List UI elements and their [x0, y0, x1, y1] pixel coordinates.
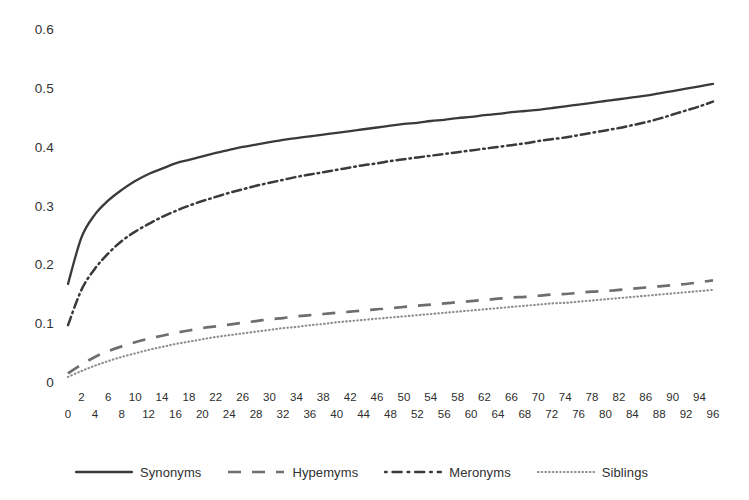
- series-line-synonyms: [68, 84, 713, 284]
- legend-label-hypemyms: Hypemyms: [292, 465, 358, 480]
- x-tick-label: 42: [337, 391, 363, 403]
- y-tick-label: 0.4: [10, 140, 54, 155]
- x-tick-label: 34: [283, 391, 309, 403]
- legend-swatch-dashed-icon: [227, 465, 285, 479]
- x-tick-label: 6: [95, 391, 121, 403]
- x-tick-label: 60: [458, 408, 484, 420]
- legend-swatch-solid-icon: [75, 465, 133, 479]
- x-tick-label: 2: [68, 391, 94, 403]
- series-paths: [68, 84, 713, 377]
- y-tick-label: 0.1: [10, 316, 54, 331]
- x-tick-label: 84: [619, 408, 645, 420]
- x-tick-label: 90: [660, 391, 686, 403]
- x-tick-label: 32: [270, 408, 296, 420]
- x-tick-label: 82: [606, 391, 632, 403]
- x-tick-label: 46: [364, 391, 390, 403]
- x-tick-label: 4: [82, 408, 108, 420]
- x-tick-label: 74: [552, 391, 578, 403]
- x-tick-label: 86: [633, 391, 659, 403]
- x-tick-label: 0: [55, 408, 81, 420]
- x-tick-label: 44: [351, 408, 377, 420]
- legend-swatch-dotted-icon: [537, 465, 595, 479]
- legend-item-hypemyms: Hypemyms: [227, 465, 384, 480]
- chart-legend: Synonyms Hypemyms Meronyms Siblings: [0, 455, 749, 489]
- x-tick-label: 26: [230, 391, 256, 403]
- y-tick-label: 0.2: [10, 257, 54, 272]
- line-chart: 0.60.50.40.30.20.10 26101418222630343842…: [0, 0, 749, 500]
- x-tick-label: 68: [512, 408, 538, 420]
- x-tick-label: 88: [646, 408, 672, 420]
- series-line-meronyms: [68, 102, 713, 326]
- y-tick-label: 0: [10, 375, 54, 390]
- x-tick-label: 48: [378, 408, 404, 420]
- legend-label-meronyms: Meronyms: [449, 465, 510, 480]
- y-tick-label: 0.5: [10, 81, 54, 96]
- x-tick-label: 30: [257, 391, 283, 403]
- x-tick-label: 58: [445, 391, 471, 403]
- x-tick-label: 18: [176, 391, 202, 403]
- x-tick-label: 14: [149, 391, 175, 403]
- series-line-hypemyms: [68, 280, 713, 373]
- x-tick-label: 38: [310, 391, 336, 403]
- x-tick-label: 72: [539, 408, 565, 420]
- y-tick-label: 0.3: [10, 199, 54, 214]
- x-tick-label: 76: [566, 408, 592, 420]
- x-tick-label: 80: [593, 408, 619, 420]
- x-tick-label: 50: [391, 391, 417, 403]
- x-tick-label: 12: [136, 408, 162, 420]
- legend-item-meronyms: Meronyms: [384, 465, 536, 480]
- legend-label-siblings: Siblings: [602, 465, 648, 480]
- x-tick-label: 40: [324, 408, 350, 420]
- x-tick-label: 92: [673, 408, 699, 420]
- x-tick-label: 78: [579, 391, 605, 403]
- x-tick-label: 22: [203, 391, 229, 403]
- x-tick-label: 52: [404, 408, 430, 420]
- x-tick-label: 16: [163, 408, 189, 420]
- x-tick-label: 70: [525, 391, 551, 403]
- legend-swatch-dashdot-icon: [384, 465, 442, 479]
- legend-label-synonyms: Synonyms: [140, 465, 202, 480]
- x-tick-label: 64: [485, 408, 511, 420]
- x-tick-label: 94: [687, 391, 713, 403]
- x-tick-label: 54: [418, 391, 444, 403]
- series-line-siblings: [68, 290, 713, 377]
- x-tick-label: 96: [700, 408, 726, 420]
- x-tick-label: 8: [109, 408, 135, 420]
- x-tick-label: 20: [189, 408, 215, 420]
- x-tick-label: 10: [122, 391, 148, 403]
- x-tick-label: 36: [297, 408, 323, 420]
- x-tick-label: 62: [472, 391, 498, 403]
- x-tick-label: 28: [243, 408, 269, 420]
- x-tick-label: 56: [431, 408, 457, 420]
- y-tick-label: 0.6: [10, 22, 54, 37]
- x-tick-label: 66: [498, 391, 524, 403]
- legend-item-siblings: Siblings: [537, 465, 674, 480]
- x-tick-label: 24: [216, 408, 242, 420]
- legend-item-synonyms: Synonyms: [75, 465, 228, 480]
- plot-area: [0, 0, 749, 500]
